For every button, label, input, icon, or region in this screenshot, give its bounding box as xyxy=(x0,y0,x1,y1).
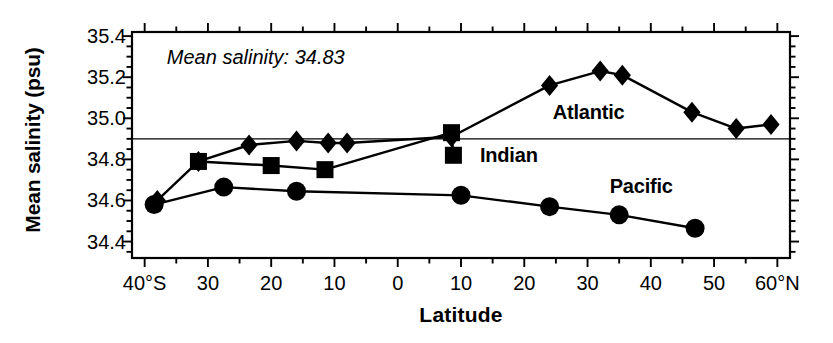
data-point-diamond xyxy=(728,118,745,139)
series-label-pacific: Pacific xyxy=(610,175,673,198)
x-tick-label: 60°N xyxy=(755,272,800,295)
data-point-diamond xyxy=(541,75,558,96)
x-tick-label: 30 xyxy=(576,272,598,295)
data-point-square xyxy=(316,161,333,178)
data-point-square xyxy=(190,153,207,170)
series-label-indian: Indian xyxy=(480,144,538,167)
x-axis-tick-labels: 40°S3020100102030405060°N xyxy=(0,266,833,300)
series-label-atlantic: Atlantic xyxy=(553,101,625,124)
data-point-diamond xyxy=(240,135,257,156)
data-point-circle xyxy=(686,219,705,238)
x-tick-label: 20 xyxy=(260,272,282,295)
x-tick-label: 10 xyxy=(323,272,345,295)
data-point-square xyxy=(263,157,280,174)
y-tick-label: 34.8 xyxy=(87,148,126,171)
data-point-square xyxy=(443,124,460,141)
x-axis-title: Latitude xyxy=(132,303,790,327)
data-point-square xyxy=(445,147,462,164)
y-tick-label: 35.2 xyxy=(87,66,126,89)
y-tick-label: 35.0 xyxy=(87,107,126,130)
y-tick-label: 34.6 xyxy=(87,189,126,212)
data-point-diamond xyxy=(683,102,700,123)
data-point-diamond xyxy=(320,132,337,153)
data-point-diamond xyxy=(288,130,305,151)
data-point-circle xyxy=(214,178,233,197)
data-point-circle xyxy=(287,182,306,201)
data-point-circle xyxy=(452,186,471,205)
data-point-diamond xyxy=(762,114,779,135)
x-tick-label: 20 xyxy=(513,272,535,295)
y-tick-label: 34.4 xyxy=(87,230,126,253)
x-tick-label: 0 xyxy=(392,272,403,295)
data-point-diamond xyxy=(614,65,631,86)
data-point-circle xyxy=(540,197,559,216)
x-tick-label: 40°S xyxy=(123,272,167,295)
x-tick-label: 30 xyxy=(197,272,219,295)
x-tick-label: 40 xyxy=(640,272,662,295)
data-point-diamond xyxy=(592,61,609,82)
data-point-circle xyxy=(610,205,629,224)
salinity-latitude-chart: Mean salinity (psu) Latitude 35.435.235.… xyxy=(0,0,833,343)
x-tick-label: 50 xyxy=(703,272,725,295)
mean-salinity-note: Mean salinity: 34.83 xyxy=(167,46,345,69)
y-tick-label: 35.4 xyxy=(87,25,126,48)
data-point-circle xyxy=(145,195,164,214)
x-tick-label: 10 xyxy=(450,272,472,295)
data-point-diamond xyxy=(339,132,356,153)
